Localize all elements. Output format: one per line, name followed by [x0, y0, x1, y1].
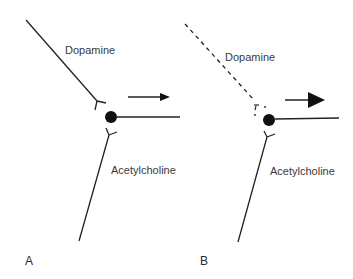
output-arrow-large-icon: [285, 92, 325, 108]
dopamine-terminal-b: [254, 105, 266, 116]
acetylcholine-terminal-a: [106, 128, 117, 135]
cholinergic-cell-body-b: [263, 114, 275, 126]
acetylcholine-axon-a: [79, 135, 109, 241]
dopamine-terminal-a: [95, 101, 106, 110]
panel-label-a: A: [25, 255, 33, 267]
cholinergic-output-axon-b: [275, 118, 339, 119]
acetylcholine-terminal-b: [264, 131, 275, 137]
dopamine-label-a: Dopamine: [65, 45, 115, 56]
dopamine-axon-a: [26, 20, 97, 101]
neuron-interaction-diagram: [0, 0, 353, 279]
panel-label-b: B: [200, 255, 208, 267]
output-arrow-small-icon: [128, 93, 170, 101]
acetylcholine-label-b: Acetylcholine: [270, 166, 335, 177]
cholinergic-cell-body-a: [105, 111, 117, 123]
acetylcholine-axon-b: [238, 137, 267, 242]
dopamine-label-b: Dopamine: [225, 52, 275, 63]
acetylcholine-label-a: Acetylcholine: [111, 165, 176, 176]
